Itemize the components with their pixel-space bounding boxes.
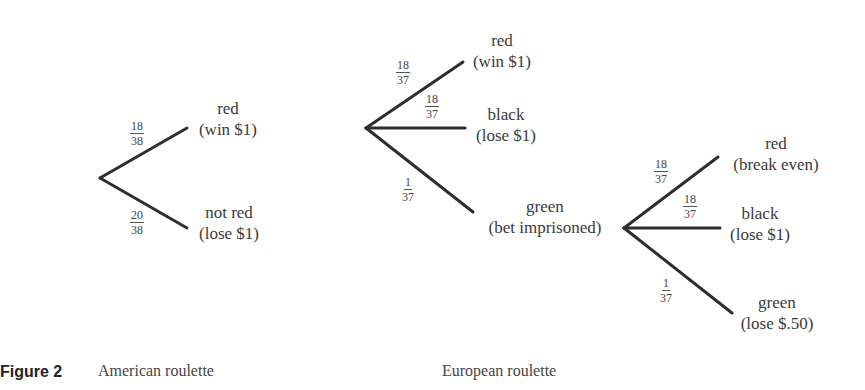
imprisoned-outcome-black: black (lose $1) — [718, 203, 802, 245]
american-prob-not-red: 20 38 — [130, 209, 144, 236]
figure-label: Figure 2 — [0, 363, 62, 381]
imprisoned-branch-green — [624, 228, 732, 313]
american-outcome-red: red (win $1) — [188, 98, 268, 140]
american-prob-red: 18 38 — [130, 120, 144, 147]
european-branch-green — [366, 128, 473, 212]
european-prob-green: 1 37 — [402, 176, 414, 203]
imprisoned-prob-green: 1 37 — [660, 277, 672, 304]
american-outcome-not-red: not red (lose $1) — [186, 202, 272, 244]
imprisoned-branch-red — [624, 157, 718, 228]
european-outcome-black: black (lose $1) — [464, 104, 548, 146]
caption-european: European roulette — [442, 362, 556, 380]
european-outcome-green: green (bet imprisoned) — [466, 196, 624, 238]
imprisoned-outcome-red: red (break even) — [717, 133, 835, 175]
imprisoned-subtree-branches — [624, 157, 732, 313]
imprisoned-prob-black: 18 37 — [683, 193, 697, 220]
european-prob-black: 18 37 — [425, 93, 439, 120]
european-branch-red — [366, 62, 463, 128]
european-outcome-red: red (win $1) — [462, 30, 542, 72]
european-prob-red: 18 37 — [396, 59, 410, 86]
caption-american: American roulette — [98, 362, 214, 380]
imprisoned-prob-red: 18 37 — [654, 158, 668, 185]
european-tree-branches — [366, 62, 473, 212]
imprisoned-outcome-green: green (lose $.50) — [731, 292, 823, 334]
